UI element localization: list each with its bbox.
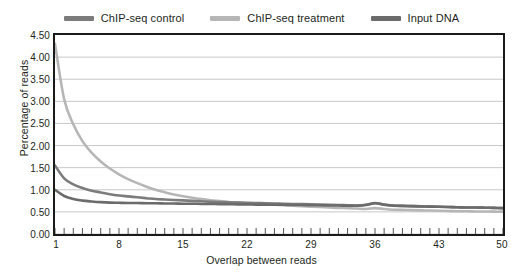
- x-axis-tick-label: 8: [116, 239, 122, 250]
- series-lines: [55, 44, 503, 212]
- legend-swatch-icon-chip-seq-control: [64, 16, 94, 21]
- legend-label-chip-seq-treatment: ChIP-seq treatment: [247, 13, 344, 24]
- chart-legend: ChIP-seq control ChIP-seq treatment Inpu…: [0, 8, 523, 28]
- y-axis-tick-label: 1.00: [30, 184, 50, 195]
- legend-item-chip-seq-treatment: ChIP-seq treatment: [210, 13, 344, 24]
- x-axis-tick-label: 15: [177, 239, 188, 250]
- y-axis-tick-label: 0.50: [30, 206, 50, 217]
- y-axis-tick-label: 4.50: [30, 30, 50, 41]
- y-axis-tick-label: 4.00: [30, 52, 50, 63]
- x-axis-tick-label: 1: [53, 239, 59, 250]
- y-axis-tick-label: 2.50: [30, 118, 50, 129]
- x-axis-title: Overlap between reads: [0, 254, 523, 266]
- x-axis-tick-label: 43: [433, 239, 444, 250]
- y-axis-tick-label: 2.00: [30, 140, 50, 151]
- plot-area: [53, 33, 505, 236]
- x-axis-tick-label: 36: [369, 239, 380, 250]
- y-axis-tick-label: 3.00: [30, 96, 50, 107]
- series-line-input-dna: [55, 190, 503, 208]
- legend-swatch-icon-chip-seq-treatment: [210, 16, 240, 21]
- y-axis-tick-label: 3.50: [30, 74, 50, 85]
- chart-figure: ChIP-seq control ChIP-seq treatment Inpu…: [0, 0, 523, 274]
- y-axis-tick-label: 0.00: [30, 229, 50, 240]
- x-axis-tick-label: 29: [305, 239, 316, 250]
- series-line-chip-seq-treatment: [55, 44, 503, 212]
- legend-label-chip-seq-control: ChIP-seq control: [101, 13, 185, 24]
- legend-item-chip-seq-control: ChIP-seq control: [64, 13, 185, 24]
- x-axis-tick-label: 50: [496, 239, 507, 250]
- x-axis-ticks: [55, 228, 503, 234]
- legend-swatch-icon-input-dna: [371, 16, 401, 21]
- x-axis-tick-labels: 18152229364350: [53, 239, 505, 253]
- chart-canvas: [53, 33, 505, 236]
- y-axis-tick-label: 1.50: [30, 162, 50, 173]
- y-axis-tick-labels: 0.000.501.001.502.002.503.003.504.004.50: [0, 33, 50, 236]
- legend-label-input-dna: Input DNA: [408, 13, 460, 24]
- x-axis-tick-label: 22: [241, 239, 252, 250]
- legend-item-input-dna: Input DNA: [371, 13, 460, 24]
